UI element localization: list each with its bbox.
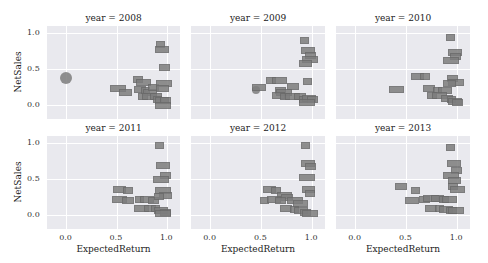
point-label-box (443, 57, 459, 64)
gridline-vertical (261, 26, 262, 119)
point-label-box (272, 77, 287, 84)
plot-panel-2013 (336, 136, 470, 229)
gridline-vertical (210, 26, 211, 119)
point-label-box (405, 197, 419, 204)
x-tick-label: 0.5 (399, 233, 412, 242)
plot-panel-2010 (336, 26, 470, 119)
plot-panel-2012 (191, 136, 325, 229)
point-label-box (446, 144, 455, 151)
gridline-vertical (66, 136, 67, 229)
y-tick-label: 0.5 (27, 64, 40, 73)
point-label-box (153, 176, 169, 183)
x-tick-label: 0.0 (348, 233, 361, 242)
y-tick-label: 0.0 (27, 100, 40, 109)
gridline-vertical (261, 136, 262, 229)
gridline-horizontal (47, 33, 180, 34)
panel-title: year = 2010 (336, 13, 470, 23)
gridline-vertical (406, 26, 407, 119)
y-tick-label: 1.0 (27, 28, 40, 37)
plot-panel-2008 (47, 26, 180, 119)
gridline-vertical (355, 26, 356, 119)
point-label-box (302, 210, 318, 217)
x-tick-label: 0.5 (110, 233, 123, 242)
point-label-box (448, 207, 464, 214)
gridline-horizontal (191, 69, 325, 70)
gridline-vertical (210, 136, 211, 229)
point-label-box (446, 34, 455, 41)
point-label-box (119, 89, 132, 96)
x-axis-label: ExpectedReturn (191, 244, 325, 254)
y-tick-label: 0.0 (27, 210, 40, 219)
point-label-box (301, 142, 310, 149)
point-label-box (447, 160, 461, 167)
panel-title: year = 2013 (336, 123, 470, 133)
x-tick-label: 0.0 (59, 233, 72, 242)
point-label-box (303, 78, 312, 85)
x-tick-label: 1.0 (450, 233, 463, 242)
plot-panel-2009 (191, 26, 325, 119)
point-label-box (411, 187, 420, 194)
y-axis-label: NetSales (13, 157, 23, 207)
point-label-box (154, 193, 164, 200)
bubble-marker (60, 72, 72, 84)
point-label-box (155, 142, 164, 149)
point-label-box (299, 174, 315, 181)
point-label-box (122, 197, 134, 204)
point-label-box (420, 73, 430, 80)
point-label-box (395, 183, 407, 190)
point-label-box (156, 162, 170, 169)
point-label-box (299, 99, 315, 106)
point-label-box (123, 187, 133, 194)
point-label-box (155, 46, 169, 53)
x-axis-label: ExpectedReturn (47, 244, 180, 254)
gridline-horizontal (336, 215, 470, 216)
gridline-horizontal (336, 69, 470, 70)
x-tick-label: 1.0 (160, 233, 173, 242)
gridline-horizontal (336, 105, 470, 106)
y-tick-label: 1.0 (27, 138, 40, 147)
y-tick-label: 0.5 (27, 174, 40, 183)
gridline-horizontal (191, 33, 325, 34)
point-label-box (305, 163, 316, 170)
panel-title: year = 2009 (191, 13, 325, 23)
point-label-box (159, 64, 170, 71)
x-axis-label: ExpectedReturn (336, 244, 470, 254)
point-label-box (155, 102, 171, 109)
point-label-box (155, 210, 171, 217)
panel-title: year = 2008 (47, 13, 180, 23)
point-label-box (452, 99, 463, 106)
point-label-box (275, 197, 286, 204)
point-label-box (305, 190, 315, 197)
x-tick-label: 0.0 (203, 233, 216, 242)
y-axis-label: NetSales (13, 47, 23, 97)
plot-panel-2011 (47, 136, 180, 229)
point-label-box (443, 80, 456, 87)
x-tick-label: 0.5 (254, 233, 267, 242)
panel-title: year = 2012 (191, 123, 325, 133)
point-label-box (299, 60, 312, 67)
point-label-box (156, 85, 169, 92)
point-label-box (252, 84, 266, 91)
point-label-box (389, 86, 404, 93)
point-label-box (442, 196, 457, 203)
point-label-box (450, 186, 465, 193)
gridline-vertical (117, 26, 118, 119)
x-tick-label: 1.0 (305, 233, 318, 242)
gridline-vertical (117, 136, 118, 229)
point-label-box (300, 37, 309, 44)
gridline-vertical (355, 136, 356, 229)
panel-title: year = 2011 (47, 123, 180, 133)
